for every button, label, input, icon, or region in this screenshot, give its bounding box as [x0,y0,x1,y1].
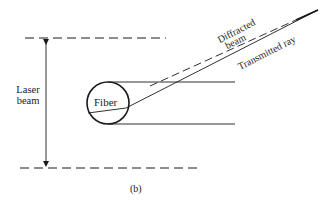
figure-caption: (b) [130,183,142,194]
beam-convergence-tip [296,10,318,20]
laser-beam-label-line1: Laser [13,84,43,95]
fiber-diffraction-diagram [0,0,331,200]
laser-beam-label: Laser beam [13,84,43,106]
laser-beam-label-line2: beam [13,95,43,106]
fiber-label: Fiber [94,97,117,108]
